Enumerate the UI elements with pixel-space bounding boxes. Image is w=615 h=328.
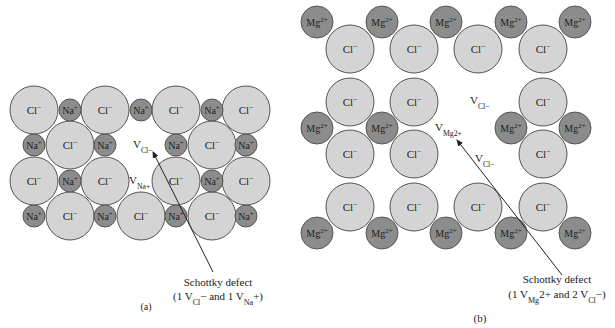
chloride-ion: Cl− <box>390 78 438 126</box>
chloride-ion: Cl− <box>519 78 567 126</box>
chloride-ion: Cl− <box>390 130 438 178</box>
chloride-ion: Cl− <box>390 183 438 231</box>
magnesium-ion: Mg2+ <box>559 217 591 249</box>
magnesium-ion: Mg2+ <box>559 112 591 144</box>
chloride-ion: Cl− <box>326 78 374 126</box>
magnesium-ion: Mg2+ <box>495 217 527 249</box>
vacancy-na-label: VNa+ <box>129 174 150 191</box>
sodium-ion: Na+ <box>94 134 116 156</box>
vacancy-mg-label: VMg2+ <box>435 121 462 138</box>
schottky-caption-a-title: Schottky defect <box>184 276 253 288</box>
sodium-ion: Na+ <box>23 134 45 156</box>
chloride-ion: Cl− <box>222 157 270 205</box>
schottky-caption-a-detail: (1 VCl− and 1 VNa+) <box>173 290 263 307</box>
chloride-ion: Cl− <box>454 25 502 73</box>
magnesium-ion: Mg2+ <box>366 112 398 144</box>
magnesium-ion: Mg2+ <box>495 112 527 144</box>
vacancy-cl-label: VCl− <box>133 138 153 155</box>
sodium-ion: Na+ <box>130 99 152 121</box>
sodium-ion: Na+ <box>235 134 257 156</box>
schottky-caption-b-title: Schottky defect <box>523 273 592 285</box>
chloride-ion: Cl− <box>519 183 567 231</box>
magnesium-ion: Mg2+ <box>495 6 527 38</box>
panel-b-label: (b) <box>474 312 487 325</box>
sodium-ion: Na+ <box>201 170 223 192</box>
chloride-ion: Cl− <box>10 86 58 134</box>
sodium-ion: Na+ <box>23 205 45 227</box>
sodium-ion: Na+ <box>94 205 116 227</box>
chloride-ion: Cl− <box>10 157 58 205</box>
chloride-ion: Cl− <box>326 25 374 73</box>
magnesium-ion: Mg2+ <box>301 217 333 249</box>
chloride-ion: Cl− <box>81 157 129 205</box>
panel-b-mgcl2-lattice: Cl−Cl−Cl−Cl−Cl−Cl−Cl−Cl−Cl−Cl−Cl−Cl−Cl−C… <box>301 6 591 249</box>
panel-a-nacl-lattice: Cl−Cl−Cl−Cl−Cl−Cl−Cl−Cl−Cl−Cl−Cl−Cl−Cl−N… <box>10 86 270 240</box>
chloride-ion: Cl− <box>152 86 200 134</box>
sodium-ion: Na+ <box>201 99 223 121</box>
chloride-ion: Cl− <box>390 25 438 73</box>
chloride-ion: Cl− <box>46 192 94 240</box>
chloride-ion: Cl− <box>519 25 567 73</box>
sodium-ion: Na+ <box>165 205 187 227</box>
chloride-ion: Cl− <box>188 192 236 240</box>
sodium-ion: Na+ <box>235 205 257 227</box>
sodium-ion: Na+ <box>165 134 187 156</box>
magnesium-ion: Mg2+ <box>430 6 462 38</box>
chloride-ion: Cl− <box>454 183 502 231</box>
sodium-ion: Na+ <box>59 99 81 121</box>
sodium-ion: Na+ <box>59 170 81 192</box>
vacancy-cl-label: VCl− <box>475 152 495 169</box>
schottky-caption-b-detail: (1 VMg2+ and 2 VCl−) <box>508 288 606 305</box>
chloride-ion: Cl− <box>222 86 270 134</box>
magnesium-ion: Mg2+ <box>366 6 398 38</box>
magnesium-ion: Mg2+ <box>430 217 462 249</box>
magnesium-ion: Mg2+ <box>301 6 333 38</box>
vacancy-cl-label: VCl− <box>470 94 490 111</box>
panel-a-label: (a) <box>140 301 151 313</box>
chloride-ion: Cl− <box>46 121 94 169</box>
magnesium-ion: Mg2+ <box>301 112 333 144</box>
chloride-ion: Cl− <box>326 183 374 231</box>
magnesium-ion: Mg2+ <box>366 217 398 249</box>
schottky-defect-diagram: Cl−Cl−Cl−Cl−Cl−Cl−Cl−Cl−Cl−Cl−Cl−Cl−Cl−N… <box>0 0 615 328</box>
chloride-ion: Cl− <box>81 86 129 134</box>
magnesium-ion: Mg2+ <box>559 6 591 38</box>
chloride-ion: Cl− <box>326 130 374 178</box>
chloride-ion: Cl− <box>117 192 165 240</box>
chloride-ion: Cl− <box>519 130 567 178</box>
chloride-ion: Cl− <box>188 121 236 169</box>
